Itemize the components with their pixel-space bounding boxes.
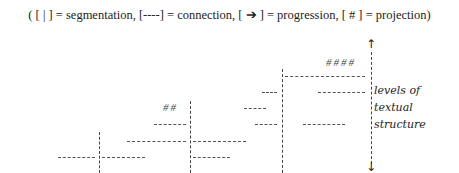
segmentation-line-3: [282, 69, 283, 173]
segmentation-line-2: [190, 101, 191, 173]
connection-10: [58, 157, 95, 158]
segmentation-line-1: [99, 132, 100, 173]
projection-mark-left: ##: [163, 101, 178, 113]
connection-8: [127, 141, 186, 142]
connection-6: [255, 124, 277, 125]
connection-11: [102, 157, 145, 158]
connection-3: [318, 92, 365, 93]
projection-mark-top: ####: [326, 56, 356, 68]
axis-label-line-2: textual: [374, 101, 413, 114]
connection-5: [154, 124, 186, 125]
connection-1: [285, 76, 365, 77]
connection-2: [262, 92, 277, 93]
legend: ( [ | ] = segmentation, [----] = connect…: [0, 7, 459, 23]
connection-12: [193, 157, 230, 158]
axis-line: [371, 52, 372, 164]
axis-label-line-1: levels of: [374, 84, 420, 97]
axis-label-line-3: structure: [374, 118, 426, 131]
connection-7: [303, 124, 345, 125]
connection-9: [193, 141, 246, 142]
axis-down-arrow-icon: ↓: [366, 161, 376, 173]
connection-4: [244, 108, 266, 109]
axis-up-arrow-icon: ↑: [366, 38, 376, 50]
